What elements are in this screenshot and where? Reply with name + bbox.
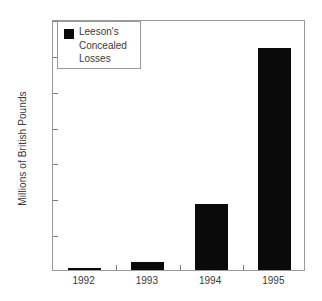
y-axis-tick-mark bbox=[53, 93, 58, 94]
x-axis-tick-mark bbox=[180, 265, 181, 270]
x-axis-tick-mark bbox=[243, 265, 244, 270]
y-axis-tick-mark bbox=[53, 236, 58, 237]
bar bbox=[68, 268, 101, 270]
x-axis-tick-mark bbox=[116, 265, 117, 270]
chart-legend: Leeson's Concealed Losses bbox=[57, 21, 141, 69]
legend-swatch-icon bbox=[64, 29, 74, 39]
bar bbox=[258, 48, 291, 270]
legend-label: Leeson's Concealed Losses bbox=[79, 25, 127, 66]
x-axis-tick-label: 1993 bbox=[115, 275, 179, 286]
x-axis-tick-label: 1995 bbox=[241, 275, 305, 286]
x-axis-tick-label: 1992 bbox=[52, 275, 116, 286]
x-axis-tick-label: 1994 bbox=[178, 275, 242, 286]
y-axis-tick-mark bbox=[53, 129, 58, 130]
bar-chart-figure: Millions of British Pounds 0100200300400… bbox=[0, 0, 322, 301]
y-axis-tick-mark bbox=[53, 200, 58, 201]
bar bbox=[131, 262, 164, 270]
bar bbox=[195, 204, 228, 270]
y-axis-title: Millions of British Pounds bbox=[17, 54, 28, 244]
y-axis-tick-mark bbox=[53, 164, 58, 165]
